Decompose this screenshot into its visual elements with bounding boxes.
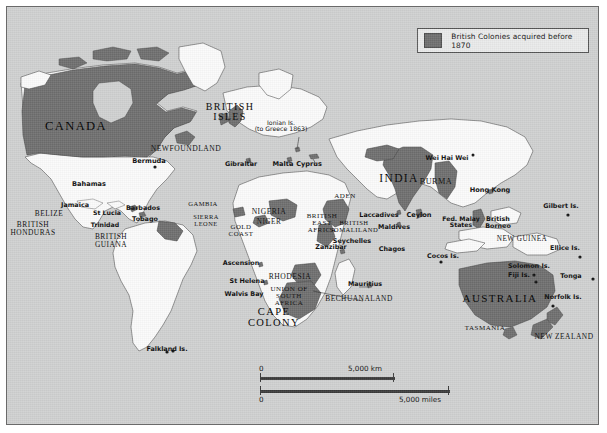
map-label-ionian-is: Ionian Is.(to Greece 1863) (255, 120, 308, 133)
map-legend: British Colonies acquired before 1870 (417, 28, 589, 53)
map-label-british-honduras: BRITISHHONDURAS (10, 221, 55, 236)
map-label-line: NEW ZEALAND (535, 333, 594, 341)
map-label-niger: NIGER (257, 219, 281, 226)
scale-bar-miles: 0 5,000 miles (260, 386, 450, 395)
map-label-bermuda: Bermuda (132, 158, 165, 165)
map-label-sierra-leone: SIERRALEONE (193, 214, 219, 227)
map-label-wei-hai-wei: Wei Hai Wei (426, 155, 469, 162)
map-frame: .land{fill:#fbfbfb;stroke:#444;stroke-wi… (6, 6, 599, 425)
map-label-newfoundland: NEWFOUNDLAND (151, 145, 222, 153)
map-label-cape-colony: CAPECOLONY (248, 307, 300, 328)
legend-swatch (424, 33, 442, 48)
map-label-line: Tonga (560, 273, 581, 280)
map-label-line: AUSTRALIA (463, 293, 538, 304)
map-label-line: Walvis Bay (225, 291, 264, 298)
map-label-british-somaliland: BRITISHSOMALILAND (330, 220, 379, 233)
map-label-line: Ceylon (406, 212, 431, 219)
map-label-bahamas: Bahamas (72, 181, 106, 188)
map-label-line: BURMA (420, 178, 453, 186)
map-label-tobago: Tobago (132, 216, 158, 223)
map-label-line: (to Greece 1863) (255, 126, 308, 132)
map-label-line: St Lucia (93, 210, 121, 216)
map-label-line: Seychelles (333, 238, 371, 245)
map-label-maldives: Maldives (378, 224, 410, 231)
map-label-line: Gibraltar (225, 161, 257, 168)
map-label-malta: Malta (273, 161, 294, 168)
map-label-line: Hong Kong (470, 187, 511, 194)
map-label-falkland-is: Falkland Is. (146, 346, 187, 353)
map-label-line: Bahamas (72, 181, 106, 188)
map-label-line: Ellice Is. (550, 245, 580, 252)
map-label-line: CANADA (45, 120, 107, 133)
map-label-norfolk-is: Norfolk Is. (544, 294, 581, 301)
scale-bar-km: 0 5,000 km (260, 373, 450, 382)
map-label-gibraltar: Gibraltar (225, 161, 257, 168)
map-label-tonga: Tonga (560, 273, 581, 280)
map-label-trinidad: Trinidad (91, 222, 119, 228)
map-label-new-guinea: NEW GUINEA (497, 236, 548, 243)
map-label-line: ISLES (206, 112, 255, 122)
map-label-gold-coast: GOLDCOAST (229, 224, 254, 238)
map-label-solomon-is: Solomon Is. (508, 263, 550, 270)
map-label-line: Mauritius (348, 281, 382, 288)
map-label-union-south-africa: UNION OFSOUTHAFRICA (270, 286, 307, 307)
map-label-british-borneo: BritishBorneo (485, 216, 511, 229)
map-label-british-guiana: BRITISHGUIANA (95, 233, 127, 248)
map-label-india: INDIA (379, 173, 419, 185)
map-label-line: States (442, 222, 480, 228)
map-label-cyprus: Cyprus (296, 161, 322, 168)
map-label-new-zealand: NEW ZEALAND (535, 333, 594, 341)
map-label-line: Gilbert Is. (543, 203, 579, 210)
map-label-st-helena: St Helena (230, 278, 265, 285)
map-label-line: St Helena (230, 278, 265, 285)
map-label-line: Ascension (223, 260, 259, 267)
map-label-line: LEONE (193, 221, 219, 228)
map-label-bechuanaland: BECHUANALAND (325, 295, 393, 303)
map-label-belize: BELIZE (35, 210, 63, 218)
map-label-line: Bermuda (132, 158, 165, 165)
map-label-cocos-is: Cocos Is. (427, 253, 459, 260)
map-label-rhodesia: RHODESIA (269, 273, 311, 281)
map-label-line: SOMALILAND (330, 227, 379, 234)
map-label-barbados: Barbados (126, 205, 160, 212)
map-label-line: GAMBIA (188, 201, 218, 208)
map-label-burma: BURMA (420, 178, 453, 186)
map-label-line: Solomon Is. (508, 263, 550, 270)
map-label-line: Laccadives (359, 212, 398, 219)
map-label-jamaica: Jamaica (61, 202, 89, 209)
map-label-line: COAST (229, 231, 254, 238)
map-label-gilbert-is: Gilbert Is. (543, 203, 579, 210)
map-label-line: Wei Hai Wei (426, 155, 469, 162)
map-label-line: TASMANIA (465, 325, 505, 332)
map-label-british-isles: BRITISHISLES (206, 102, 255, 122)
map-label-line: Cyprus (296, 161, 322, 168)
map-label-line: NEW GUINEA (497, 236, 548, 243)
map-label-fiji-is: Fiji Is. (508, 272, 530, 279)
scale-miles-zero: 0 (259, 395, 264, 404)
map-label-line: Maldives (378, 224, 410, 231)
map-label-line: NEWFOUNDLAND (151, 145, 222, 153)
map-label-chagos: Chagos (379, 246, 405, 253)
map-label-walvis-bay: Walvis Bay (225, 291, 264, 298)
map-label-line: Norfolk Is. (544, 294, 581, 301)
map-label-mauritius: Mauritius (348, 281, 382, 288)
scale-miles-value: 5,000 miles (399, 395, 441, 404)
map-label-line: ADEN (334, 193, 355, 200)
map-label-tasmania: TASMANIA (465, 325, 505, 332)
map-label-line: COLONY (248, 318, 300, 329)
map-label-ascension: Ascension (223, 260, 259, 267)
map-label-line: Cocos Is. (427, 253, 459, 260)
map-label-line: Falkland Is. (146, 346, 187, 353)
map-label-line: HONDURAS (10, 229, 55, 237)
map-label-line: Jamaica (61, 202, 89, 209)
map-label-line: INDIA (379, 173, 419, 185)
map-label-ceylon: Ceylon (406, 212, 431, 219)
map-label-line: Fiji Is. (508, 272, 530, 279)
map-label-australia: AUSTRALIA (463, 293, 538, 304)
map-label-gambia: GAMBIA (188, 201, 218, 208)
map-label-canada: CANADA (45, 120, 107, 133)
map-label-laccadives: Laccadives (359, 212, 398, 219)
map-label-line: Trinidad (91, 222, 119, 228)
map-label-line: Tobago (132, 216, 158, 223)
map-label-line: BECHUANALAND (325, 295, 393, 303)
